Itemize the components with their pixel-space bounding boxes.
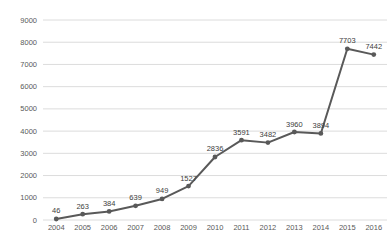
y-axis-tick-label: 8000: [20, 38, 37, 47]
data-point-label: 7703: [339, 36, 356, 45]
y-axis-tick-label: 5000: [20, 104, 37, 113]
y-axis-tick-label: 7000: [20, 60, 37, 69]
line-chart: 0100020003000400050006000700080009000200…: [0, 0, 391, 249]
data-point-label: 3591: [233, 128, 250, 137]
data-point-marker: [371, 52, 376, 57]
data-point-marker: [213, 155, 218, 160]
data-point-marker: [186, 184, 191, 189]
data-point-marker: [266, 140, 271, 145]
data-point-label: 46: [52, 206, 60, 215]
data-point-marker: [133, 203, 138, 208]
x-axis-tick-label: 2006: [101, 223, 118, 232]
data-point-label: 384: [103, 199, 116, 208]
x-axis-tick-label: 2016: [365, 223, 382, 232]
data-point-marker: [160, 197, 165, 202]
x-axis-tick-label: 2004: [48, 223, 65, 232]
data-point-label: 7442: [365, 42, 382, 51]
x-axis-tick-label: 2010: [207, 223, 224, 232]
x-axis-tick-label: 2012: [260, 223, 277, 232]
y-axis-tick-label: 9000: [20, 16, 37, 25]
chart-canvas: 0100020003000400050006000700080009000200…: [0, 0, 391, 249]
y-axis-tick-label: 4000: [20, 127, 37, 136]
x-axis-tick-label: 2015: [339, 223, 356, 232]
data-point-marker: [54, 217, 59, 222]
data-point-label: 3960: [286, 120, 303, 129]
y-axis-tick-label: 0: [33, 216, 37, 225]
x-axis-tick-label: 2005: [74, 223, 91, 232]
x-axis-tick-label: 2011: [233, 223, 249, 232]
y-axis-tick-label: 2000: [20, 171, 37, 180]
data-point-marker: [345, 46, 350, 51]
data-point-marker: [318, 131, 323, 136]
data-point-label: 949: [156, 186, 169, 195]
data-point-label: 2836: [207, 144, 224, 153]
data-point-label: 3894: [313, 121, 330, 130]
y-axis-tick-label: 1000: [20, 193, 37, 202]
data-point-marker: [292, 130, 297, 135]
x-axis-tick-label: 2013: [286, 223, 303, 232]
y-axis-tick-label: 3000: [20, 149, 37, 158]
data-point-marker: [107, 209, 112, 214]
data-series-line: [56, 49, 374, 219]
data-point-marker: [239, 138, 244, 143]
data-point-label: 1527: [180, 174, 197, 183]
data-point-label: 3482: [260, 130, 277, 139]
data-point-label: 639: [129, 193, 142, 202]
x-axis-tick-label: 2008: [154, 223, 171, 232]
data-point-label: 263: [76, 202, 89, 211]
x-axis-tick-label: 2009: [180, 223, 197, 232]
x-axis-tick-label: 2007: [127, 223, 144, 232]
data-point-marker: [80, 212, 85, 217]
x-axis-tick-label: 2014: [313, 223, 330, 232]
y-axis-tick-label: 6000: [20, 82, 37, 91]
